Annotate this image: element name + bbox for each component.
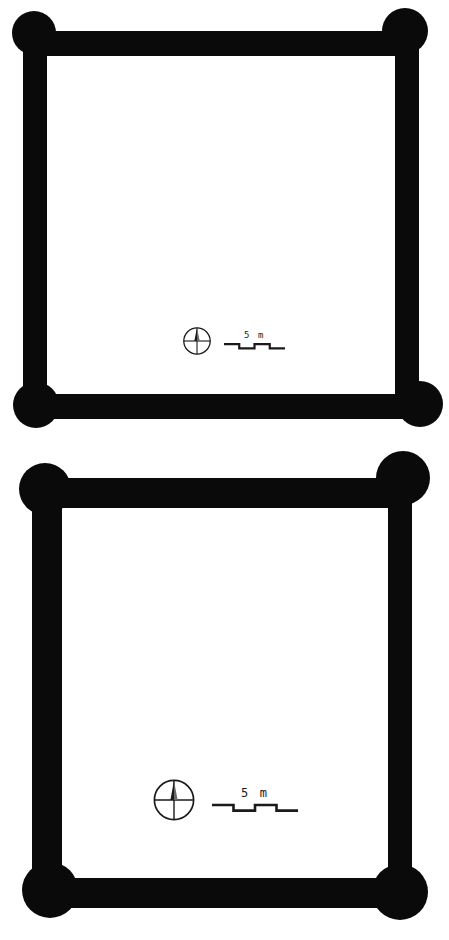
lower-plan-walls — [32, 478, 412, 908]
upper-structure-plan — [0, 0, 449, 455]
lower-plan-drawing — [0, 450, 449, 940]
wall-west — [32, 489, 62, 891]
post-northeast — [382, 8, 428, 54]
drawing-sheet: 5 m — [0, 0, 449, 940]
post-northeast — [376, 451, 430, 505]
scale-bar: 5 m — [212, 787, 298, 814]
lower-structure-plan — [0, 450, 449, 940]
north-arrow-icon — [152, 778, 196, 822]
post-southeast — [397, 381, 443, 427]
lower-plan-annotations: 5 m — [152, 778, 298, 822]
scale-bar-label: 5 m — [241, 787, 269, 799]
post-southeast — [372, 864, 428, 920]
wall-east — [388, 478, 412, 892]
post-southwest — [22, 862, 78, 918]
upper-plan-walls — [23, 31, 422, 419]
wall-south — [45, 878, 403, 908]
wall-north — [30, 31, 414, 56]
upper-plan-annotations: 5 m — [182, 326, 285, 356]
post-southwest — [13, 382, 59, 428]
scale-bar: 5 m — [224, 331, 285, 351]
scale-bar-label: 5 m — [244, 331, 265, 340]
upper-plan-corner-posts — [12, 8, 443, 428]
upper-plan-drawing — [0, 0, 449, 455]
scale-bar-graphic — [212, 802, 298, 814]
post-northwest — [12, 11, 56, 55]
wall-north — [42, 478, 402, 508]
scale-bar-graphic — [224, 342, 285, 351]
wall-east — [395, 31, 419, 407]
wall-west — [23, 33, 47, 408]
post-northwest — [19, 463, 71, 515]
wall-south — [30, 394, 422, 419]
lower-plan-corner-posts — [19, 451, 430, 920]
north-arrow-icon — [182, 326, 212, 356]
